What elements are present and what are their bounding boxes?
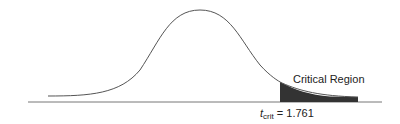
t-critical-value: = 1.761 — [277, 107, 314, 119]
t-critical-label: tcrit = 1.761 — [260, 107, 314, 121]
t-distribution-diagram — [0, 0, 400, 124]
t-subscript: crit — [263, 112, 274, 121]
critical-region-label: Critical Region — [293, 73, 365, 85]
critical-region-shade — [280, 82, 358, 102]
